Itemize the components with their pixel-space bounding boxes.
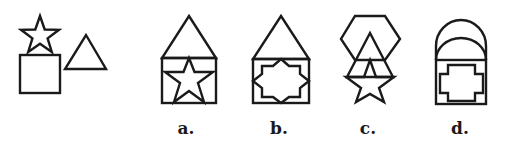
option-c-hexagon-icon — [341, 16, 400, 60]
given-shapes — [20, 16, 106, 93]
option-c-triangle-icon — [347, 33, 393, 77]
option-a-star-icon — [165, 58, 213, 102]
puzzle-figure — [0, 0, 517, 145]
option-b-label[interactable]: b. — [270, 118, 288, 138]
option-b-triangle-icon — [253, 16, 309, 59]
option-b-figure[interactable] — [253, 16, 309, 103]
option-d-label[interactable]: d. — [451, 118, 469, 138]
option-d-square-icon — [436, 60, 486, 104]
option-a-triangle-icon — [162, 16, 216, 58]
given-triangle-icon — [65, 35, 106, 69]
option-c-figure[interactable] — [341, 16, 400, 102]
option-d-figure[interactable] — [436, 20, 486, 104]
option-a-figure[interactable] — [162, 16, 216, 103]
option-d-cross-icon — [440, 65, 483, 101]
option-b-eight-point-star-icon — [253, 59, 309, 103]
given-square-icon — [20, 55, 60, 93]
option-a-square-icon — [162, 58, 216, 103]
given-star-icon — [21, 16, 59, 52]
option-d-outer-arch-icon — [436, 20, 486, 60]
option-a-label[interactable]: a. — [178, 118, 195, 138]
option-c-label[interactable]: c. — [360, 118, 376, 138]
option-d-inner-arch-icon — [436, 38, 486, 60]
